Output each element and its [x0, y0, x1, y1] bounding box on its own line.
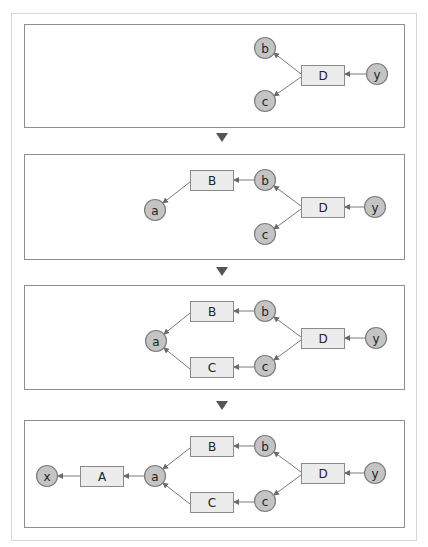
panel-step-3: BbaDyCc [25, 286, 405, 390]
node-label: C [208, 361, 216, 375]
variable-node-y: y [367, 64, 388, 85]
variable-node-c: c [255, 491, 276, 512]
panel-step-2: BbaDyc [25, 155, 405, 260]
variable-node-y: y [365, 197, 386, 218]
node-label: B [208, 305, 216, 319]
node-label: c [262, 228, 269, 242]
down-arrow-icon [216, 133, 228, 142]
node-label: D [318, 201, 327, 215]
variable-node-a: a [146, 331, 167, 352]
node-label: b [261, 440, 269, 454]
variable-node-x: x [37, 466, 58, 487]
function-node-B: B [191, 171, 234, 191]
variable-node-b: b [255, 436, 276, 457]
variable-node-b: b [255, 301, 276, 322]
function-node-B: B [191, 302, 234, 322]
node-label: D [318, 332, 327, 346]
variable-node-c: c [255, 356, 276, 377]
function-node-B: B [191, 437, 234, 457]
node-label: y [371, 467, 378, 481]
node-label: c [262, 360, 269, 374]
function-node-A: A [81, 467, 124, 487]
variable-node-a: a [145, 466, 166, 487]
node-label: C [208, 496, 216, 510]
variable-node-y: y [365, 463, 386, 484]
variable-node-b: b [255, 170, 276, 191]
node-label: D [318, 467, 327, 481]
node-label: D [318, 69, 327, 83]
variable-node-y: y [366, 328, 387, 349]
node-label: c [262, 495, 269, 509]
function-node-D: D [302, 329, 345, 349]
function-node-D: D [302, 464, 345, 484]
node-label: c [262, 95, 269, 109]
variable-node-c: c [255, 224, 276, 245]
diagram-canvas: bcDyBbaDycBbaDyCcxAaBbCcDy [0, 0, 428, 547]
node-label: B [208, 440, 216, 454]
variable-node-c: c [255, 91, 276, 112]
node-label: y [372, 332, 379, 346]
panel-step-1: bcDy [25, 25, 405, 128]
function-node-D: D [302, 198, 345, 218]
variable-node-a: a [145, 200, 166, 221]
function-node-C: C [191, 493, 234, 513]
down-arrow-icon [216, 401, 228, 410]
diagram-panels: bcDyBbaDycBbaDyCcxAaBbCcDy [25, 25, 405, 528]
node-label: x [43, 470, 50, 484]
node-label: B [208, 174, 216, 188]
node-label: y [373, 68, 380, 82]
node-label: y [371, 201, 378, 215]
node-label: a [152, 335, 159, 349]
function-node-D: D [302, 66, 345, 86]
node-label: a [151, 470, 158, 484]
node-label: b [261, 305, 269, 319]
node-label: b [261, 174, 269, 188]
node-label: a [151, 204, 158, 218]
variable-node-b: b [255, 38, 276, 59]
down-arrow-icon [216, 267, 228, 276]
node-label: A [98, 470, 107, 484]
panel-step-4: xAaBbCcDy [25, 421, 405, 528]
function-node-C: C [191, 358, 234, 378]
node-label: b [261, 42, 269, 56]
panel-border [25, 25, 405, 128]
